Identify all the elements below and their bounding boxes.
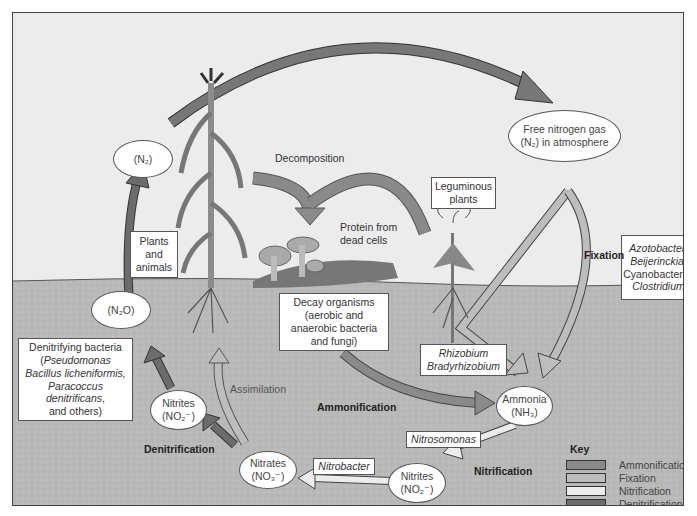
free-nitrogen-node: Free nitrogen gas (N₂) in atmosphere: [508, 110, 621, 162]
key-swatch: [566, 499, 606, 506]
plants-animals-box: Plants and animals: [130, 231, 178, 278]
key-item-nitrification: Nitrification: [566, 485, 671, 497]
nitrogen-fixers-box: Azotobacter, Beijerinckia, Cyanobacteria…: [621, 235, 684, 300]
leguminous-plants-box: Leguminous plants: [431, 177, 496, 209]
nitrites-right-node: Nitrites (NO₂⁻): [388, 463, 446, 503]
rhizobium-box: Rhizobium Bradyrhizobium: [420, 344, 507, 376]
nitrosomonas-box: Nitrosomonas: [406, 431, 481, 448]
nitrates-node: Nitrates (NO₃⁻): [239, 451, 297, 489]
nitrogen-cycle-diagram: (N₂) Free nitrogen gas (N₂) in atmospher…: [12, 12, 684, 506]
nitrites-left-node: Nitrites (NO₂⁻): [150, 390, 207, 430]
key-swatch: [566, 460, 606, 470]
n2o-node: (N₂O): [91, 291, 151, 329]
protein-label: Protein from dead cells: [340, 221, 397, 247]
key-swatch: [566, 486, 606, 496]
n2-node: (N₂): [113, 140, 173, 178]
denitrifying-bacteria-box: Denitrifying bacteria (Pseudomonas Bacil…: [18, 338, 133, 421]
fixation-label: Fixation: [584, 249, 624, 262]
key-item-denitrification: Denitrification: [566, 498, 683, 506]
nitrification-label: Nitrification: [474, 465, 532, 478]
key-item-ammonification: Ammonification: [566, 459, 684, 471]
decomposition-label: Decomposition: [275, 152, 344, 165]
ammonification-label: Ammonification: [317, 401, 396, 414]
key-title: Key: [570, 443, 589, 455]
assimilation-label: Assimilation: [230, 383, 286, 396]
nitrobacter-box: Nitrobacter: [313, 458, 375, 475]
key-swatch: [566, 473, 606, 483]
denitrification-label: Denitrification: [144, 443, 215, 456]
decay-organisms-box: Decay organisms (aerobic and anaerobic b…: [279, 293, 389, 351]
diagram-graphics: [13, 13, 683, 505]
ammonia-node: Ammonia (NH₃): [496, 386, 553, 426]
key-item-fixation: Fixation: [566, 472, 656, 484]
